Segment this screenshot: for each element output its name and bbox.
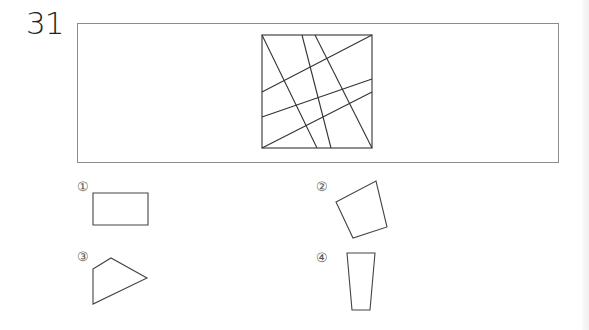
cut-line-6 xyxy=(262,92,372,148)
cut-line-1 xyxy=(262,35,317,148)
option-2-label[interactable]: ② xyxy=(316,180,328,194)
option-4-shape[interactable] xyxy=(347,253,375,310)
cut-line-4 xyxy=(262,35,372,92)
divided-square-figure xyxy=(262,35,372,148)
cut-line-3 xyxy=(315,35,372,148)
option-3-label[interactable]: ③ xyxy=(77,250,89,264)
cut-line-2 xyxy=(302,35,331,148)
option-1-label[interactable]: ① xyxy=(77,180,89,194)
option-3-shape[interactable] xyxy=(93,258,147,304)
figure-canvas xyxy=(0,0,589,330)
option-4-label[interactable]: ④ xyxy=(316,251,328,265)
option-1-shape[interactable] xyxy=(93,193,148,225)
cut-line-5 xyxy=(262,79,372,117)
option-shapes xyxy=(93,181,387,310)
page-edge-strip xyxy=(582,0,589,330)
option-2-shape[interactable] xyxy=(336,181,387,238)
